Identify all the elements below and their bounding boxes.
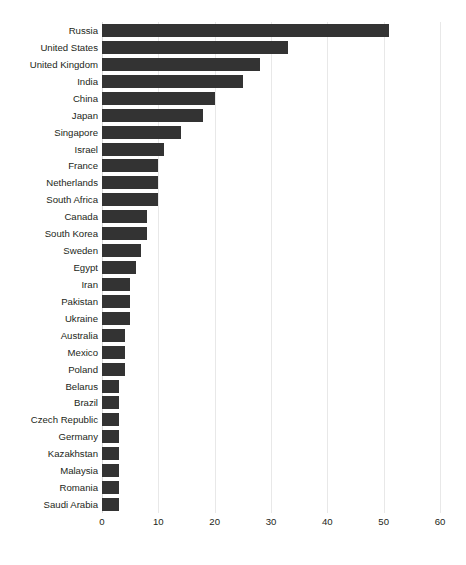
category-label: Japan xyxy=(0,107,98,125)
bar xyxy=(102,210,147,223)
bar-row xyxy=(102,344,440,362)
bar xyxy=(102,244,141,257)
bar-row xyxy=(102,327,440,345)
x-tick-label: 10 xyxy=(153,516,164,527)
bar xyxy=(102,295,130,308)
bar-row xyxy=(102,394,440,412)
bar-row xyxy=(102,39,440,57)
category-label: United Kingdom xyxy=(0,56,98,74)
bar-row xyxy=(102,428,440,446)
bar xyxy=(102,346,125,359)
bar-row xyxy=(102,479,440,497)
x-tick-label: 30 xyxy=(266,516,277,527)
bar xyxy=(102,143,164,156)
category-label: Pakistan xyxy=(0,293,98,311)
bar xyxy=(102,92,215,105)
bar xyxy=(102,430,119,443)
category-label: Sweden xyxy=(0,242,98,260)
value-axis: 0102030405060 xyxy=(0,516,466,536)
category-label: Czech Republic xyxy=(0,411,98,429)
category-label: Mexico xyxy=(0,344,98,362)
bar xyxy=(102,41,288,54)
category-label: Russia xyxy=(0,22,98,40)
category-label: Israel xyxy=(0,141,98,159)
bar xyxy=(102,261,136,274)
x-tick-label: 20 xyxy=(209,516,220,527)
bar xyxy=(102,58,260,71)
bar-row xyxy=(102,462,440,480)
bar-row xyxy=(102,208,440,226)
category-label: Saudi Arabia xyxy=(0,496,98,514)
bar xyxy=(102,176,158,189)
category-label: Brazil xyxy=(0,394,98,412)
category-label: Germany xyxy=(0,428,98,446)
bar-row xyxy=(102,445,440,463)
bar xyxy=(102,126,181,139)
bar-row xyxy=(102,174,440,192)
bar-row xyxy=(102,225,440,243)
category-label: Canada xyxy=(0,208,98,226)
bar-row xyxy=(102,56,440,74)
category-label: Iran xyxy=(0,276,98,294)
category-label: Romania xyxy=(0,479,98,497)
category-label: Australia xyxy=(0,327,98,345)
bar-row xyxy=(102,157,440,175)
category-label: Egypt xyxy=(0,259,98,277)
category-label: Poland xyxy=(0,361,98,379)
bar xyxy=(102,193,158,206)
bar xyxy=(102,75,243,88)
category-label: South Africa xyxy=(0,191,98,209)
x-tick-label: 40 xyxy=(322,516,333,527)
category-label: Netherlands xyxy=(0,174,98,192)
x-tick-label: 0 xyxy=(99,516,104,527)
bar-row xyxy=(102,73,440,91)
bar-row xyxy=(102,242,440,260)
gridline-60 xyxy=(440,22,441,513)
bar-row xyxy=(102,276,440,294)
bar-row xyxy=(102,310,440,328)
bar-row xyxy=(102,90,440,108)
bar-row xyxy=(102,141,440,159)
bar-row xyxy=(102,191,440,209)
plot-area xyxy=(102,22,440,513)
category-label: Ukraine xyxy=(0,310,98,328)
category-label: Malaysia xyxy=(0,462,98,480)
bar xyxy=(102,109,203,122)
bar-row xyxy=(102,361,440,379)
bar-row xyxy=(102,107,440,125)
bar xyxy=(102,329,125,342)
category-label: United States xyxy=(0,39,98,57)
bar-chart: RussiaUnited StatesUnited KingdomIndiaCh… xyxy=(0,0,466,565)
bar-row xyxy=(102,378,440,396)
bar xyxy=(102,312,130,325)
category-label: India xyxy=(0,73,98,91)
bar-row xyxy=(102,496,440,514)
x-tick-label: 60 xyxy=(435,516,446,527)
bar xyxy=(102,396,119,409)
category-label: Singapore xyxy=(0,124,98,142)
bar xyxy=(102,464,119,477)
bar-row xyxy=(102,259,440,277)
bar-row xyxy=(102,124,440,142)
category-label: China xyxy=(0,90,98,108)
bar xyxy=(102,413,119,426)
bar-row xyxy=(102,22,440,40)
category-label: Kazakhstan xyxy=(0,445,98,463)
bar xyxy=(102,481,119,494)
bar xyxy=(102,278,130,291)
bar xyxy=(102,498,119,511)
category-label: South Korea xyxy=(0,225,98,243)
bar xyxy=(102,363,125,376)
category-axis: RussiaUnited StatesUnited KingdomIndiaCh… xyxy=(0,22,98,513)
bar xyxy=(102,227,147,240)
category-label: Belarus xyxy=(0,378,98,396)
category-label: France xyxy=(0,157,98,175)
bar-row xyxy=(102,411,440,429)
bar-row xyxy=(102,293,440,311)
bar xyxy=(102,159,158,172)
bar xyxy=(102,24,389,37)
bar xyxy=(102,447,119,460)
x-tick-label: 50 xyxy=(378,516,389,527)
bar xyxy=(102,380,119,393)
